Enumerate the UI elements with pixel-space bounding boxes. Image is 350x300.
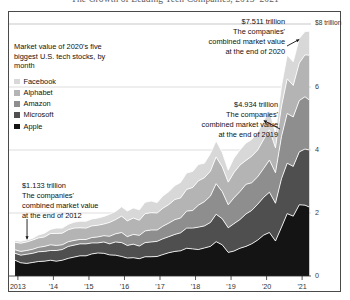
annotation-2020-value: $7.511 trillion: [150, 17, 285, 27]
annotation-2020-line2: combined market value: [150, 37, 285, 47]
chart-screenshot: The Growth of Leading Tech Companies, 20…: [0, 0, 350, 300]
x-axis-tick-19: '19: [226, 282, 235, 291]
legend-swatch-microsoft: [14, 112, 20, 118]
legend-item-facebook: Facebook: [14, 77, 122, 87]
legend-label-apple: Apple: [24, 122, 43, 132]
chart-headline: The Growth of Leading Tech Companies, 20…: [0, 0, 350, 4]
legend-item-alphabet: Alphabet: [14, 88, 122, 98]
annotation-2012: $1.133 trillion The companies' combined …: [22, 181, 142, 221]
annotation-2020-line3: at the end of 2020: [150, 47, 285, 57]
legend-swatch-amazon: [14, 101, 20, 107]
legend-item-apple: Apple: [14, 122, 122, 132]
x-axis-tick-14: '14: [49, 282, 58, 291]
annotation-2019-line1: The companies': [150, 110, 278, 120]
x-axis-tick-21: '21: [297, 282, 306, 291]
annotation-2020-line1: The companies': [150, 27, 285, 37]
legend-item-microsoft: Microsoft: [14, 110, 122, 120]
x-axis-tick-15: '15: [84, 282, 93, 291]
annotation-2012-line2: combined market value: [22, 201, 142, 211]
legend-label-amazon: Amazon: [24, 99, 51, 109]
annotation-2019: $4.934 trillion The companies' combined …: [150, 100, 278, 140]
legend-label-alphabet: Alphabet: [24, 88, 53, 98]
annotation-2019-line3: at the end of 2019: [150, 130, 278, 140]
legend-label-microsoft: Microsoft: [24, 110, 54, 120]
y-axis-tick-6: 6: [315, 82, 319, 91]
x-axis-tick-18: '18: [191, 282, 200, 291]
y-axis-tick-0: 0: [315, 271, 319, 280]
x-axis-tick-2013: 2013: [10, 282, 26, 291]
annotation-2012-line1: The companies': [22, 191, 142, 201]
legend-label-facebook: Facebook: [24, 77, 56, 87]
x-axis-tick-16: '16: [120, 282, 129, 291]
x-axis-tick-20: '20: [262, 282, 271, 291]
x-axis-tick-17: '17: [155, 282, 164, 291]
legend-swatch-alphabet: [14, 90, 20, 96]
chart-legend: Market value of 2020's five biggest U.S.…: [14, 42, 122, 133]
legend-item-amazon: Amazon: [14, 99, 122, 109]
annotation-2019-value: $4.934 trillion: [150, 100, 278, 110]
annotation-2019-line2: combined market value: [150, 120, 278, 130]
legend-title: Market value of 2020's five biggest U.S.…: [14, 42, 122, 71]
y-axis-tick-2: 2: [315, 208, 319, 217]
legend-swatch-facebook: [14, 79, 20, 85]
annotation-2020: $7.511 trillion The companies' combined …: [150, 17, 285, 57]
annotation-2012-line3: at the end of 2012: [22, 211, 142, 221]
y-axis-label-top: $8 trillion: [315, 19, 341, 26]
y-axis-tick-4: 4: [315, 145, 319, 154]
annotation-2012-value: $1.133 trillion: [22, 181, 142, 191]
legend-swatch-apple: [14, 124, 20, 130]
